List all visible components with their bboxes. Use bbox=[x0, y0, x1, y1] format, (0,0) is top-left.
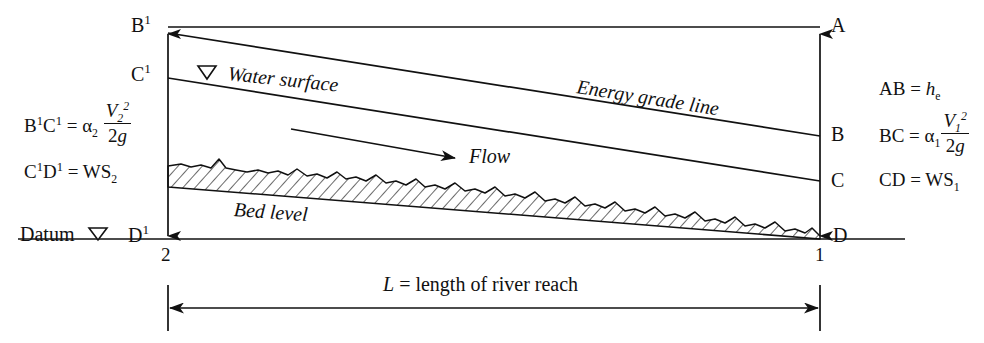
equation-ab: AB = he bbox=[879, 78, 970, 100]
point-label-d-prime: D1 bbox=[128, 225, 149, 245]
equation-b1c1: B1C1 = α2 V22 2g bbox=[24, 100, 132, 147]
point-label-a: A bbox=[831, 15, 845, 35]
point-label-c-prime: C1 bbox=[131, 64, 151, 84]
equation-c1d1: C1D1 = WS2 bbox=[24, 161, 132, 183]
point-label-c: C bbox=[831, 170, 844, 190]
equation-bc: BC = α1 V12 2g bbox=[879, 110, 970, 157]
fraction-v2-squared-over-2g: V22 2g bbox=[104, 100, 131, 147]
length-dimension-label: L = length of river reach bbox=[383, 274, 578, 294]
point-label-b-prime: B1 bbox=[131, 15, 151, 35]
datum-label: Datum bbox=[20, 224, 74, 244]
water-level-triangle-icon bbox=[198, 66, 216, 79]
equation-block-right: AB = he BC = α1 V12 2g CD = WS1 bbox=[879, 78, 970, 191]
equation-block-left: B1C1 = α2 V22 2g C1D1 = WS2 bbox=[24, 100, 132, 183]
river-reach-energy-diagram: B1 C1 D1 A B C D 2 1 Water surface Energ… bbox=[0, 0, 984, 343]
station-label-left: 2 bbox=[161, 245, 171, 264]
fraction-v1-squared-over-2g: V12 2g bbox=[941, 110, 968, 157]
point-label-b: B bbox=[831, 124, 844, 144]
equation-cd: CD = WS1 bbox=[879, 169, 970, 191]
bed-level-label: Bed level bbox=[233, 199, 308, 224]
flow-direction-arrow bbox=[291, 129, 455, 158]
river-bed-band bbox=[168, 159, 820, 239]
point-label-d: D bbox=[833, 225, 847, 245]
station-label-right: 1 bbox=[815, 245, 825, 264]
flow-label: Flow bbox=[469, 146, 510, 166]
